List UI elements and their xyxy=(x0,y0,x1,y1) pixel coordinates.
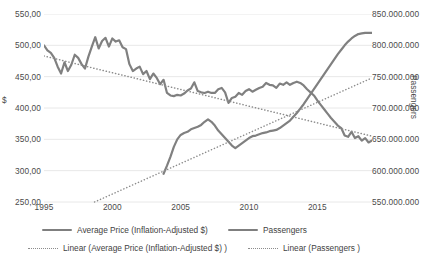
legend-solid-line-icon xyxy=(42,225,72,235)
y-axis-left-tick-label: 450,00 xyxy=(15,72,41,82)
y-axis-left-title: $ xyxy=(2,95,7,105)
y-axis-left-tick-label: 500,00 xyxy=(15,40,41,50)
legend-item[interactable]: Linear (Average Price (Inflation-Adjuste… xyxy=(28,243,227,253)
legend-item-label: Linear (Passengers ) xyxy=(283,243,360,253)
chart-legend: Average Price (Inflation-Adjusted $)Pass… xyxy=(0,222,428,260)
y-axis-left-tick-label: 550,00 xyxy=(15,9,41,19)
chart-container: 250,00300,00350,00400,00450,00500,00550,… xyxy=(0,0,428,261)
legend-item-label: Average Price (Inflation-Adjusted $) xyxy=(77,225,208,235)
y-axis-left-tick-label: 350,00 xyxy=(15,134,41,144)
series-line xyxy=(164,33,372,174)
y-axis-right-title: Passengers xyxy=(409,75,419,119)
series-line xyxy=(44,37,372,142)
y-axis-left: 250,00300,00350,00400,00450,00500,00550,… xyxy=(0,0,41,215)
chart-plot-svg xyxy=(44,14,372,204)
legend-item[interactable]: Average Price (Inflation-Adjusted $) xyxy=(42,225,208,235)
y-axis-left-tick-label: 300,00 xyxy=(15,166,41,176)
plot-area xyxy=(44,14,372,202)
x-axis: 19952000200520102015 xyxy=(0,202,428,218)
legend-solid-line-icon xyxy=(228,225,258,235)
y-axis-right-tick-label: 850.000.000 xyxy=(372,9,419,19)
series-line xyxy=(44,56,372,136)
legend-dotted-line-icon xyxy=(28,243,58,253)
legend-dotted-line-icon xyxy=(248,243,278,253)
legend-item[interactable]: Passengers xyxy=(228,225,307,235)
y-axis-right-tick-label: 600.000.000 xyxy=(372,166,419,176)
y-axis-left-tick-label: 400,00 xyxy=(15,103,41,113)
legend-item-label: Passengers xyxy=(263,225,307,235)
y-axis-right-tick-label: 800.000.000 xyxy=(372,40,419,50)
legend-row-trendlines: Linear (Average Price (Inflation-Adjuste… xyxy=(0,240,428,256)
y-axis-right: 550.000.000600.000.000650.000.000700.000… xyxy=(372,0,428,215)
legend-item-label: Linear (Average Price (Inflation-Adjuste… xyxy=(63,243,227,253)
y-axis-right-tick-label: 650.000.000 xyxy=(372,134,419,144)
legend-item[interactable]: Linear (Passengers ) xyxy=(248,243,360,253)
legend-row-primary: Average Price (Inflation-Adjusted $)Pass… xyxy=(0,222,428,238)
